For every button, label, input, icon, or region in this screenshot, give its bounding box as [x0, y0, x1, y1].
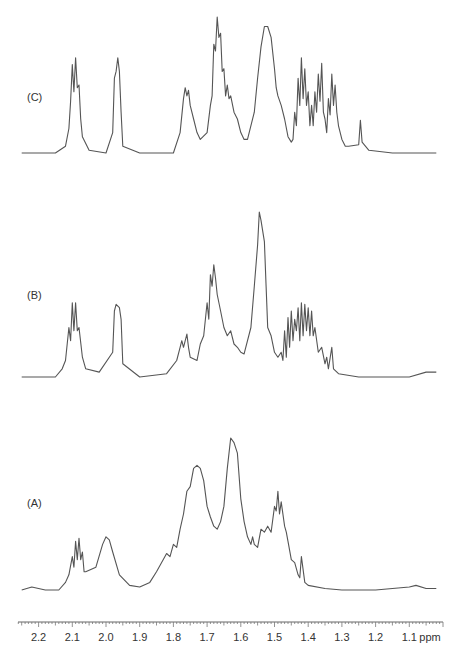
x-axis-unit-label: ppm	[419, 631, 440, 643]
x-tick-label: 1.5	[267, 631, 282, 643]
x-tick-label: 1.1	[402, 631, 417, 643]
spectrum-trace-b	[22, 212, 437, 377]
x-tick-label: 1.7	[199, 631, 214, 643]
x-tick-label: 1.3	[334, 631, 349, 643]
x-tick-label: 1.9	[132, 631, 147, 643]
nmr-stacked-spectra-chart: (C) (B) (A) 2.22.12.01.91.81.71.61.51.41…	[0, 0, 458, 655]
x-tick-label: 2.1	[65, 631, 80, 643]
x-tick-label: 1.4	[301, 631, 316, 643]
x-axis-tick-labels: 2.22.12.01.91.81.71.61.51.41.31.21.1	[31, 631, 417, 643]
x-tick-label: 2.2	[31, 631, 46, 643]
spectrum-label-a: (A)	[27, 497, 42, 509]
spectrum-trace-c	[22, 17, 437, 153]
spectrum-trace-a	[22, 438, 437, 590]
x-tick-label: 1.8	[166, 631, 181, 643]
x-tick-label: 1.2	[368, 631, 383, 643]
spectrum-label-c: (C)	[27, 91, 42, 103]
spectra-traces	[22, 17, 437, 590]
x-tick-label: 2.0	[98, 631, 113, 643]
x-tick-label: 1.6	[233, 631, 248, 643]
spectrum-label-b: (B)	[27, 289, 42, 301]
x-axis-ppm: 2.22.12.01.91.81.71.61.51.41.31.21.1 ppm	[18, 622, 443, 643]
x-axis-ticks	[18, 622, 443, 627]
